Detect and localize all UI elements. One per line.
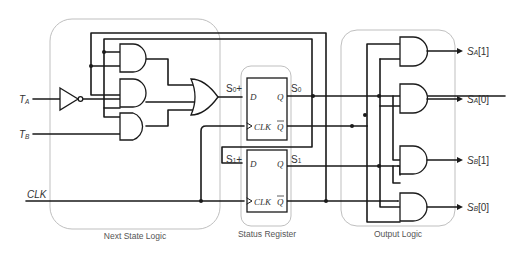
ff1-d-pin: D (249, 159, 257, 169)
s1-label: S1 (291, 154, 302, 165)
ff0-clk-pin: CLK (254, 122, 272, 132)
inverter-gate (60, 88, 78, 110)
junction-dot (102, 50, 106, 54)
s0-label: S0 (291, 83, 302, 94)
next-state-logic-label: Next State Logic (104, 231, 167, 241)
inverter-bubble (78, 97, 83, 102)
junction-dot (324, 199, 328, 203)
junction-dot (363, 113, 367, 117)
junction-dot (377, 94, 381, 98)
arrow-icon (457, 157, 463, 163)
wire-outer-feedback-branch (91, 66, 120, 95)
junction-dot (199, 199, 203, 203)
wire-and3-or (146, 110, 194, 126)
or-gate (191, 79, 218, 115)
wire-and-sb0-in1 (380, 201, 400, 207)
and-gate-3 (120, 113, 143, 140)
arrow-icon (457, 96, 463, 102)
output-sb0-label: SB[0] (467, 202, 489, 213)
input-clk-label: CLK (27, 189, 48, 200)
junction-dot (377, 164, 381, 168)
and-gate-sa0 (400, 84, 428, 113)
wire-and-sa1-in1 (367, 44, 400, 126)
junction-dot (89, 64, 93, 68)
wire-and1-or (146, 59, 194, 85)
output-logic-label: Output Logic (374, 229, 423, 239)
junction-dot (350, 124, 354, 128)
arrow-icon (457, 48, 463, 54)
input-ta-label: TA (19, 94, 29, 105)
status-register-label: Status Register (238, 229, 296, 239)
and-gate-1 (120, 44, 146, 72)
ff0-q-pin: Q (277, 92, 284, 102)
ff0-qbar-pin: Q (277, 122, 284, 132)
ff1-qbar-pin: Q (277, 197, 284, 207)
circuit-diagram: Next State Logic Status Register Output … (0, 0, 507, 255)
wire-inner-feedback-branch2 (104, 108, 120, 117)
input-tb-label: TB (19, 129, 30, 140)
ff1-q-pin: Q (277, 159, 284, 169)
s0-plus-label: S0+ (226, 83, 242, 94)
ff1-clk-pin: CLK (254, 197, 272, 207)
ff0-d-pin: D (249, 92, 257, 102)
and-gate-2 (120, 79, 146, 107)
s1-plus-label: S1+ (226, 154, 242, 165)
output-sb1-label: SB[1] (467, 155, 489, 166)
and-gate-sa1 (400, 37, 427, 66)
and-gate-sb1 (400, 146, 427, 174)
and-gate-sb0 (400, 193, 427, 221)
arrow-icon (457, 204, 463, 210)
output-sa0-label: SA[0] (467, 94, 489, 105)
junction-dot (311, 94, 315, 98)
output-sa1-label: SA[1] (467, 46, 489, 57)
wire-s1-to-sb0 (393, 166, 400, 183)
